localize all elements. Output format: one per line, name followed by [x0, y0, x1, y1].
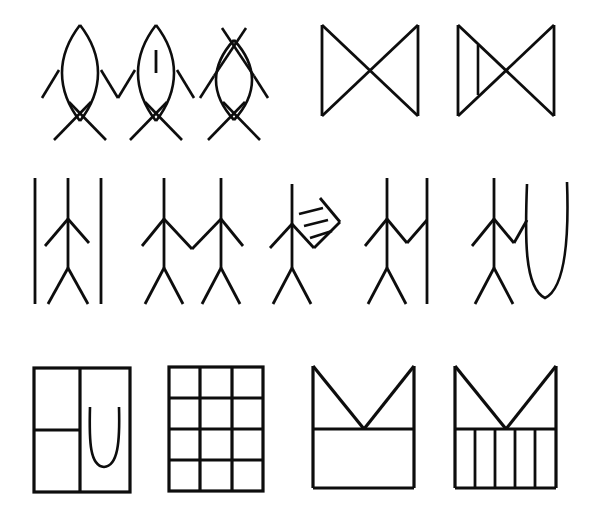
arm-left	[118, 70, 135, 98]
rake-tooth-3	[299, 208, 323, 214]
figure-bowtie-plain	[320, 23, 420, 118]
figure-stick-figure-holding-post	[363, 176, 438, 306]
arm-left	[45, 219, 68, 246]
leg-right-outer	[221, 268, 240, 304]
arm-left	[472, 219, 494, 246]
arm-right-tail	[254, 76, 268, 98]
figure-enclosure-with-u	[32, 366, 132, 494]
figure-lens-figure-plain	[40, 18, 120, 143]
arm-left	[365, 219, 387, 246]
notch-left-diagonal	[313, 366, 364, 429]
figure-bowtie-with-bar	[456, 23, 556, 118]
arm-inner-up	[407, 220, 427, 243]
lens-left-arc	[138, 25, 156, 121]
arm-outer-left	[142, 219, 164, 246]
leg-left	[208, 102, 245, 140]
figure-lens-figure-double-cross	[192, 18, 276, 143]
leg-left	[475, 268, 494, 304]
arm-right	[68, 219, 89, 243]
notch-right-diagonal	[506, 366, 556, 429]
leg-left-inner	[164, 268, 183, 304]
inner-u-curve	[90, 407, 120, 467]
leg-right-inner	[202, 268, 221, 304]
leg-right	[387, 268, 406, 304]
upper-cross-left	[214, 28, 246, 76]
arm-left-tail	[200, 76, 214, 98]
arm-right	[292, 224, 314, 248]
leg-right	[223, 102, 260, 140]
leg-left	[273, 268, 292, 304]
leg-right	[494, 268, 513, 304]
notch-left-diagonal	[455, 366, 506, 429]
figure-grid-3x4	[167, 365, 265, 493]
leg-right	[292, 268, 311, 304]
arm-left	[270, 224, 292, 248]
arm-inner-left	[164, 219, 192, 249]
rake-back	[320, 198, 340, 222]
upper-cross-right	[222, 28, 254, 76]
leg-left	[368, 268, 387, 304]
figure-stick-figure-with-rake	[268, 176, 358, 306]
leg-left-outer	[145, 268, 164, 304]
figure-sheet	[0, 0, 609, 519]
figure-notched-box-striped	[452, 363, 559, 491]
notch-right-diagonal	[364, 366, 414, 429]
arm-left	[42, 70, 59, 98]
figure-notched-box-plain	[310, 363, 417, 491]
lens-right-arc	[80, 25, 98, 121]
figure-lens-figure-with-tick	[116, 18, 196, 143]
arm-inner-down	[494, 219, 514, 243]
lens-left-arc	[62, 25, 80, 121]
leg-left	[48, 268, 68, 304]
figure-stick-figure-pair-joined	[140, 176, 245, 306]
u-hook-curve	[526, 182, 568, 298]
rake-tooth-2	[304, 220, 328, 226]
arm-outer-right	[221, 219, 243, 246]
leg-right	[68, 268, 88, 304]
lens-right-arc	[156, 25, 174, 121]
arm-inner-right	[192, 219, 221, 249]
arm-inner-down	[387, 219, 407, 243]
figure-stick-figure-between-posts	[32, 176, 104, 306]
figure-stick-figure-with-u-hook	[470, 176, 575, 316]
